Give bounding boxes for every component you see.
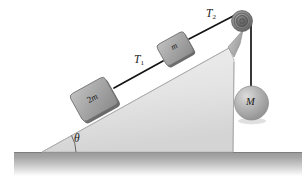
label-tension-T1: T1 <box>134 54 144 67</box>
label-angle-theta: θ <box>74 133 80 145</box>
diagram-canvas <box>0 0 308 178</box>
label-tension-T2: T2 <box>206 8 216 21</box>
pulley <box>232 11 253 32</box>
label-hanging-mass-M: M <box>246 97 255 108</box>
ground-surface <box>14 152 302 176</box>
physics-diagram: T2 T1 θ M m 2m <box>0 0 308 178</box>
